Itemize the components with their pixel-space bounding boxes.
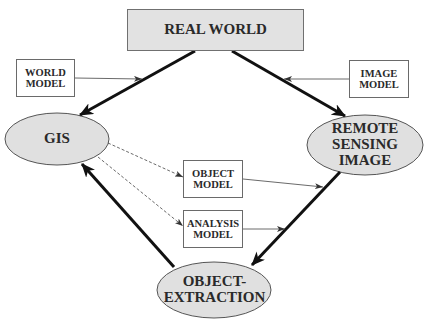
arrow-remote-sensing-to-object-extraction — [252, 172, 340, 265]
analysis-model-box: ANALYSIS MODEL — [183, 210, 243, 248]
arrow-object-extraction-to-gis — [82, 164, 174, 267]
object-model-box: OBJECT MODEL — [183, 160, 243, 198]
image-model-box: IMAGE MODEL — [349, 60, 409, 98]
real-world-box: REAL WORLD — [127, 9, 304, 51]
dashed-arrow-gis-to-object-model — [108, 143, 183, 177]
arrow-realworld-to-gis — [80, 51, 195, 115]
arrow-realworld-to-remote-sensing — [232, 51, 345, 116]
gis-label: GIS — [5, 113, 109, 165]
remote-sensing-image-label: REMOTE SENSING IMAGE — [307, 115, 423, 175]
dashed-arrow-gis-to-analysis-model — [98, 157, 183, 226]
arrow-object-model — [243, 179, 323, 187]
object-extraction-label: OBJECT- EXTRACTION — [157, 262, 272, 318]
world-model-box: WORLD MODEL — [16, 59, 75, 97]
arrow-world-model — [75, 78, 142, 79]
